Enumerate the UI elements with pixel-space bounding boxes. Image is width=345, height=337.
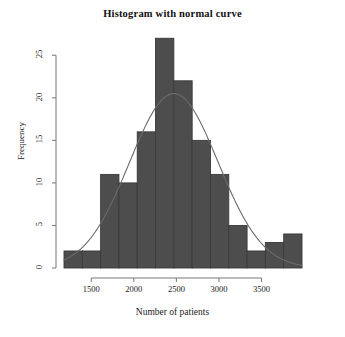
y-tick-label: 20 [34,88,44,106]
x-tick-label: 1500 [71,284,111,294]
histogram-bar [119,183,137,268]
x-tick-label: 3000 [199,284,239,294]
histogram-figure: Histogram with normal curve Frequency 05… [0,0,345,337]
x-axis [91,278,261,282]
y-tick-label: 25 [34,45,44,63]
histogram-bar [101,174,119,268]
y-tick-label: 10 [34,173,44,191]
histogram-bar [247,251,265,268]
y-axis [52,55,56,268]
x-tick-label: 2000 [114,284,154,294]
histogram-bar [210,174,228,268]
x-tick-label: 3500 [242,284,282,294]
histogram-bar [229,225,247,268]
histogram-bar [82,251,100,268]
histogram-bar [192,140,210,268]
histogram-bar [174,81,192,268]
plot-svg [0,0,345,300]
y-tick-label: 5 [34,215,44,233]
plot-area: Frequency 0510152025 1500200025003000350… [0,0,345,300]
y-tick-label: 15 [34,130,44,148]
y-tick-label: 0 [34,258,44,276]
x-axis-title: Number of patients [0,307,345,317]
histogram-bar [64,251,82,268]
y-axis-title: Frequency [16,101,26,181]
histogram-bar [156,38,174,268]
histogram-bars [64,38,302,268]
histogram-bar [137,132,155,268]
x-tick-label: 2500 [156,284,196,294]
